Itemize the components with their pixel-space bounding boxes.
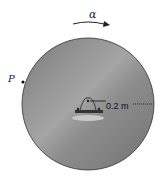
disc-diagram — [0, 0, 168, 181]
rotation-arrow-icon — [73, 21, 110, 27]
disc — [22, 38, 154, 170]
point-p-label: P — [8, 74, 15, 84]
angular-acceleration-label: α — [89, 9, 96, 20]
point-p-marker — [21, 80, 24, 83]
radius-label: 0.2 m — [106, 102, 129, 111]
